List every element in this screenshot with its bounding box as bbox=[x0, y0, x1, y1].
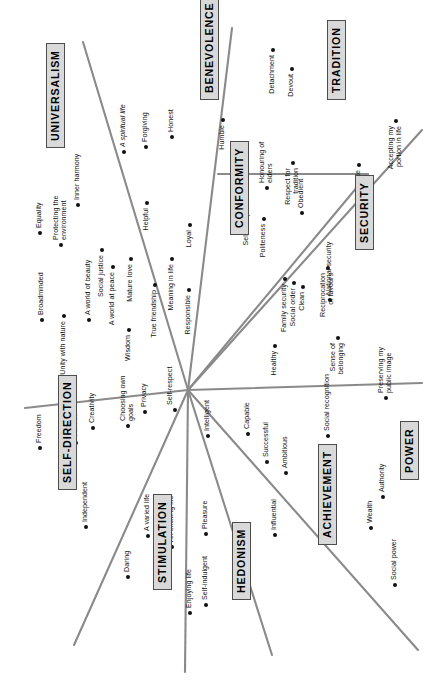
value-label: Forgiving bbox=[141, 112, 149, 142]
value-label: Social order bbox=[289, 288, 297, 326]
value-dot-icon bbox=[153, 283, 157, 287]
value-label: Ambitious bbox=[281, 436, 289, 468]
category-label-tradition: TRADITION bbox=[327, 20, 346, 100]
value-dot-icon bbox=[357, 163, 361, 167]
value-label: Protecting the environment bbox=[52, 188, 68, 240]
value-label: Mature love bbox=[126, 264, 134, 302]
category-label-conformity: CONFORMITY bbox=[230, 141, 249, 235]
value-dot-icon bbox=[292, 281, 296, 285]
value-label: Politeness bbox=[259, 224, 267, 257]
category-label-achievement: ACHIEVEMENT bbox=[318, 444, 337, 545]
value-label: Broadminded bbox=[37, 272, 45, 315]
value-dot-icon bbox=[122, 150, 126, 154]
value-label: Devout bbox=[287, 74, 295, 97]
value-label: Obedient bbox=[297, 179, 305, 208]
value-dot-icon bbox=[126, 575, 130, 579]
value-dot-icon bbox=[87, 318, 91, 322]
value-label: Self-indulgent bbox=[201, 556, 209, 600]
value-label: Inner harmony bbox=[73, 154, 81, 200]
value-label: Capable bbox=[243, 402, 251, 429]
value-label: Detachment bbox=[268, 55, 276, 94]
value-label: Humble bbox=[218, 125, 226, 150]
value-dot-icon bbox=[127, 328, 131, 332]
value-dot-icon bbox=[84, 525, 88, 529]
value-label: True friendship bbox=[150, 290, 158, 338]
value-label: Loyal bbox=[185, 230, 193, 247]
value-dot-icon bbox=[100, 248, 104, 252]
category-label-stimulation: STIMULATION bbox=[153, 495, 172, 591]
value-label: Freedom bbox=[35, 414, 43, 443]
value-label: A world at peace bbox=[108, 272, 116, 325]
value-dot-icon bbox=[273, 344, 277, 348]
value-label: Privacy bbox=[140, 383, 148, 407]
value-label: Clean bbox=[298, 292, 306, 311]
value-label: Preserving my public image bbox=[377, 341, 393, 393]
value-label: Self-respect bbox=[166, 353, 174, 405]
category-label-power: POWER bbox=[400, 421, 419, 480]
value-dot-icon bbox=[145, 201, 149, 205]
value-dot-icon bbox=[273, 533, 277, 537]
category-label-security: SECURITY bbox=[355, 175, 374, 250]
value-dot-icon bbox=[129, 257, 133, 261]
value-label: Social power bbox=[390, 539, 398, 580]
value-label: Unity with nature bbox=[59, 321, 67, 375]
value-label: Influential bbox=[270, 499, 278, 530]
category-label-benevolence: BENEVOLENCE bbox=[200, 0, 219, 100]
value-dot-icon bbox=[326, 434, 330, 438]
value-dot-icon bbox=[59, 243, 63, 247]
value-label: Wealth bbox=[366, 501, 374, 523]
value-dot-icon bbox=[188, 223, 192, 227]
value-label: Social justice bbox=[97, 255, 105, 297]
value-dot-icon bbox=[291, 161, 295, 165]
value-dot-icon bbox=[204, 532, 208, 536]
value-label: Independent bbox=[81, 482, 89, 522]
value-label: A world of beauty bbox=[84, 260, 92, 315]
value-dot-icon bbox=[265, 460, 269, 464]
value-label: Honest bbox=[167, 109, 175, 132]
value-dot-icon bbox=[246, 432, 250, 436]
value-dot-icon bbox=[111, 265, 115, 269]
value-dot-icon bbox=[393, 583, 397, 587]
value-label: Social recognition bbox=[323, 374, 331, 431]
value-dot-icon bbox=[144, 145, 148, 149]
value-dot-icon bbox=[146, 534, 150, 538]
category-label-self_direction: SELF-DIRECTION bbox=[58, 375, 77, 490]
value-dot-icon bbox=[284, 471, 288, 475]
value-label: Creativity bbox=[88, 393, 96, 423]
value-dot-icon bbox=[91, 426, 95, 430]
value-dot-icon bbox=[206, 434, 210, 438]
value-dot-icon bbox=[265, 186, 269, 190]
value-dot-icon bbox=[187, 288, 191, 292]
value-dot-icon bbox=[204, 603, 208, 607]
value-dot-icon bbox=[301, 285, 305, 289]
value-dot-icon bbox=[40, 318, 44, 322]
value-dot-icon bbox=[221, 118, 225, 122]
value-dot-icon bbox=[290, 67, 294, 71]
value-label: Family security bbox=[280, 284, 288, 332]
value-label: Wisdom bbox=[124, 335, 132, 361]
value-dot-icon bbox=[283, 277, 287, 281]
value-dot-icon bbox=[328, 298, 332, 302]
value-dot-icon bbox=[143, 410, 147, 414]
value-dot-icon bbox=[188, 611, 192, 615]
value-label: Successful bbox=[262, 422, 270, 457]
value-label: Sense of belonging bbox=[329, 343, 345, 395]
divider-line bbox=[188, 390, 418, 650]
value-dot-icon bbox=[384, 396, 388, 400]
value-dot-icon bbox=[336, 336, 340, 340]
value-label: Intelligent bbox=[203, 400, 211, 431]
value-dot-icon bbox=[170, 257, 174, 261]
value-dot-icon bbox=[38, 446, 42, 450]
value-label: Choosing own goals bbox=[119, 369, 135, 421]
category-label-hedonism: HEDONISM bbox=[232, 522, 251, 600]
value-dot-icon bbox=[173, 408, 177, 412]
schwartz-value-circle-figure: EqualityProtecting the environmentInner … bbox=[0, 0, 441, 685]
value-dot-icon bbox=[394, 119, 398, 123]
value-dot-icon bbox=[262, 217, 266, 221]
value-label: Helpful bbox=[142, 208, 150, 230]
value-label: Daring bbox=[123, 551, 131, 572]
value-dot-icon bbox=[62, 314, 66, 318]
value-label: Responsible bbox=[184, 295, 192, 335]
value-label: Authority bbox=[378, 464, 386, 492]
value-dot-icon bbox=[170, 135, 174, 139]
